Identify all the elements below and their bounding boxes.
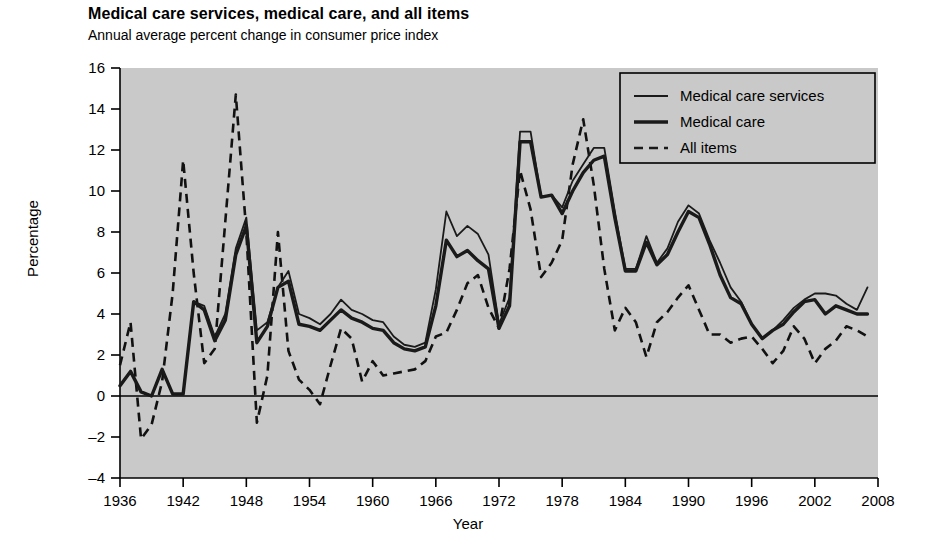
y-tick-label: –2 (88, 428, 105, 445)
x-tick-label: 1936 (103, 492, 136, 509)
x-tick-label: 2002 (798, 492, 831, 509)
y-tick-label: 10 (88, 182, 105, 199)
y-tick-label: 0 (97, 387, 105, 404)
legend-label: All items (680, 139, 737, 156)
chart-canvas: –4–20246810121416 1936194219481954196019… (0, 0, 936, 549)
x-tick-label: 1954 (293, 492, 326, 509)
x-tick-label: 1984 (609, 492, 642, 509)
legend-label: Medical care services (680, 87, 824, 104)
y-tick-label: 12 (88, 141, 105, 158)
x-tick-label: 2008 (861, 492, 894, 509)
legend-label: Medical care (680, 113, 765, 130)
y-axis-ticks: –4–20246810121416 (88, 59, 120, 486)
x-tick-label: 1948 (230, 492, 263, 509)
y-tick-label: 4 (97, 305, 105, 322)
x-axis-ticks: 1936194219481954196019661972197819841990… (103, 478, 894, 509)
y-tick-label: 8 (97, 223, 105, 240)
y-tick-label: 6 (97, 264, 105, 281)
chart-figure: Medical care services, medical care, and… (0, 0, 936, 549)
x-tick-label: 1960 (356, 492, 389, 509)
x-tick-label: 1978 (545, 492, 578, 509)
x-tick-label: 1972 (482, 492, 515, 509)
x-tick-label: 1996 (735, 492, 768, 509)
x-tick-label: 1966 (419, 492, 452, 509)
y-tick-label: –4 (88, 469, 105, 486)
y-tick-label: 14 (88, 100, 105, 117)
x-tick-label: 1990 (672, 492, 705, 509)
x-tick-label: 1942 (166, 492, 199, 509)
y-tick-label: 16 (88, 59, 105, 76)
chart-legend: Medical care servicesMedical careAll ite… (620, 73, 875, 163)
y-tick-label: 2 (97, 346, 105, 363)
